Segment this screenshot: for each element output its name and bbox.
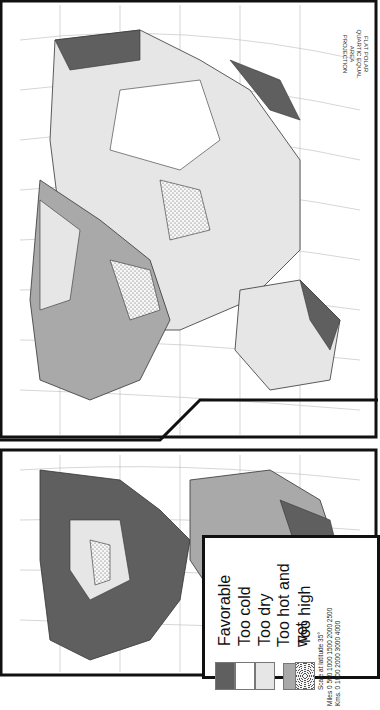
map-legend: Favorable Too cold Too dry Too hot and w… [202, 535, 380, 679]
legend-label: Too cold [236, 586, 254, 646]
too-cold-swatch [235, 662, 255, 690]
legend-item: Favorable [215, 575, 235, 690]
scale-kms: Kms. 0 1000 2000 3000 4000 [334, 621, 341, 706]
legend-label: Favorable [216, 575, 234, 646]
legend-label: Too high [296, 586, 314, 647]
scale-title: Scale at latitude 35° [317, 632, 324, 690]
projection-label: FLAT POLAR QUARTIC EQUAL AREA PROJECTION [341, 24, 369, 84]
too-high-swatch [295, 662, 315, 690]
too-dry-swatch [255, 662, 275, 690]
legend-item: Too dry [255, 594, 275, 690]
legend-label: Too dry [256, 594, 274, 646]
scale-miles: Miles 0 500 1000 1500 2000 2500 [326, 608, 333, 706]
favorable-swatch [215, 662, 235, 690]
legend-item: Too cold [235, 586, 255, 690]
legend-item: Too high [295, 586, 315, 691]
